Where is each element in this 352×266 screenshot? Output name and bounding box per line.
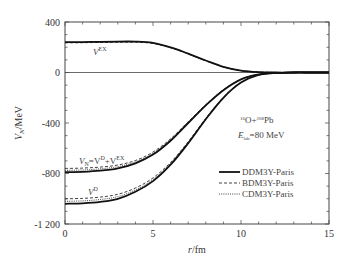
x-tick-0: 0 [63,228,68,239]
y-tick-minus1200: -1 200 [34,219,60,230]
legend-label-cdm3y: CDM3Y-Paris [242,189,294,199]
label-vex: VEX [93,46,107,57]
legend: DDM3Y-Paris BDM3Y-Paris CDM3Y-Paris [219,167,294,199]
x-tick-10: 10 [236,228,246,239]
y-tick-minus400: -400 [42,118,60,129]
y-tick-0: 0 [55,67,60,78]
y-tick-400: 400 [45,17,60,28]
energy-label: Elab=80 MeV [237,130,285,141]
label-vn: VN=VD+VEX [79,155,125,167]
x-tick-5: 5 [151,228,156,239]
legend-label-ddm3y: DDM3Y-Paris [242,167,294,177]
label-vd: VD [88,186,99,197]
curve-4 [65,72,329,168]
y-tick-minus800: -800 [42,168,60,179]
x-axis-label: r/fm [188,244,206,255]
y-axis-label: VN/MeV [13,105,26,140]
chart: 400 0 -400 -800 -1 200 0 5 10 15 r/fm VN… [0,0,352,266]
reaction-label: 16O+208Pb [240,115,274,125]
x-tick-15: 15 [324,228,334,239]
legend-label-bdm3y: BDM3Y-Paris [242,178,294,188]
